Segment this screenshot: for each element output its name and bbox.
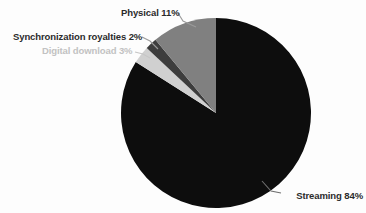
pie-label-streaming: Streaming 84% bbox=[296, 190, 363, 201]
pie-label-physical: Physical 11% bbox=[121, 7, 179, 18]
pie-label-digital-download: Digital download 3% bbox=[42, 45, 132, 56]
pie-label-synchronization-royalties: Synchronization royalties 2% bbox=[13, 31, 142, 42]
pie-chart-figure: Physical 11% Synchronization royalties 2… bbox=[0, 0, 366, 213]
